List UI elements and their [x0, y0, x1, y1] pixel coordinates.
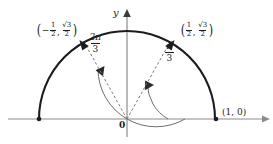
fraction-sqrt3-over-2: √3 2	[197, 22, 208, 38]
x-axis-arrowhead	[262, 115, 270, 122]
fraction-numerator: 2π	[88, 33, 103, 43]
fraction-denominator: 2	[50, 30, 56, 39]
fraction-numerator: 1	[50, 22, 56, 30]
arc-pi-thirds	[145, 81, 168, 120]
point-right-coord: ( 1 2 , √3 2 )	[180, 22, 214, 38]
fraction-denominator: 3	[165, 52, 174, 63]
arc-pi-thirds-path	[148, 84, 169, 120]
paren-open: (	[181, 24, 185, 37]
arc-two-pi-thirds	[96, 66, 185, 127]
unit-circle-figure: y 0 (1, 0) ( − 1 2 , √3 2 ) ( 1 2	[0, 0, 273, 144]
y-axis-label: y	[113, 8, 119, 18]
paren-close: )	[73, 24, 77, 37]
y-axis-arrowhead	[123, 9, 131, 17]
paren-open: (	[37, 24, 41, 37]
angle-pi-thirds-label: π 3	[165, 42, 174, 63]
point-marker-left	[81, 41, 85, 45]
coord-separator: ,	[193, 28, 196, 38]
origin-label: 0	[119, 121, 125, 130]
point-left-coord: ( − 1 2 , √3 2 )	[36, 22, 78, 38]
arc-two-pi-thirds-path	[98, 69, 185, 127]
fraction-one-half: 1 2	[50, 22, 56, 38]
fraction-denominator: 3	[91, 43, 100, 54]
fraction-denominator: 2	[199, 30, 205, 39]
fraction-denominator: 2	[186, 30, 192, 39]
minus-sign: −	[42, 26, 50, 35]
ray-two-pi-thirds	[80, 40, 128, 119]
paren-close: )	[209, 24, 213, 37]
fraction-numerator: π	[165, 42, 174, 52]
ray-two-pi-thirds-line	[87, 47, 128, 120]
fraction-sqrt3-over-2: √3 2	[61, 22, 72, 38]
point-left-label: ( − 1 2 , √3 2 )	[36, 22, 78, 38]
fraction-denominator: 2	[63, 30, 69, 39]
coord-separator: ,	[57, 28, 60, 38]
fraction-numerator: √3	[61, 22, 72, 30]
point-one-zero-label: (1, 0)	[222, 108, 246, 117]
fraction-pi-over-three: π 3	[165, 42, 174, 63]
point-right-label: ( 1 2 , √3 2 )	[180, 22, 214, 38]
angle-two-pi-thirds-label: 2π 3	[88, 33, 103, 54]
fraction-numerator: 1	[186, 22, 192, 30]
fraction-two-pi-over-three: 2π 3	[88, 33, 103, 54]
fraction-numerator: √3	[197, 22, 208, 30]
point-marker-one-zero	[214, 117, 219, 122]
point-marker-neg-one-zero	[37, 117, 42, 122]
fraction-one-half: 1 2	[186, 22, 192, 38]
